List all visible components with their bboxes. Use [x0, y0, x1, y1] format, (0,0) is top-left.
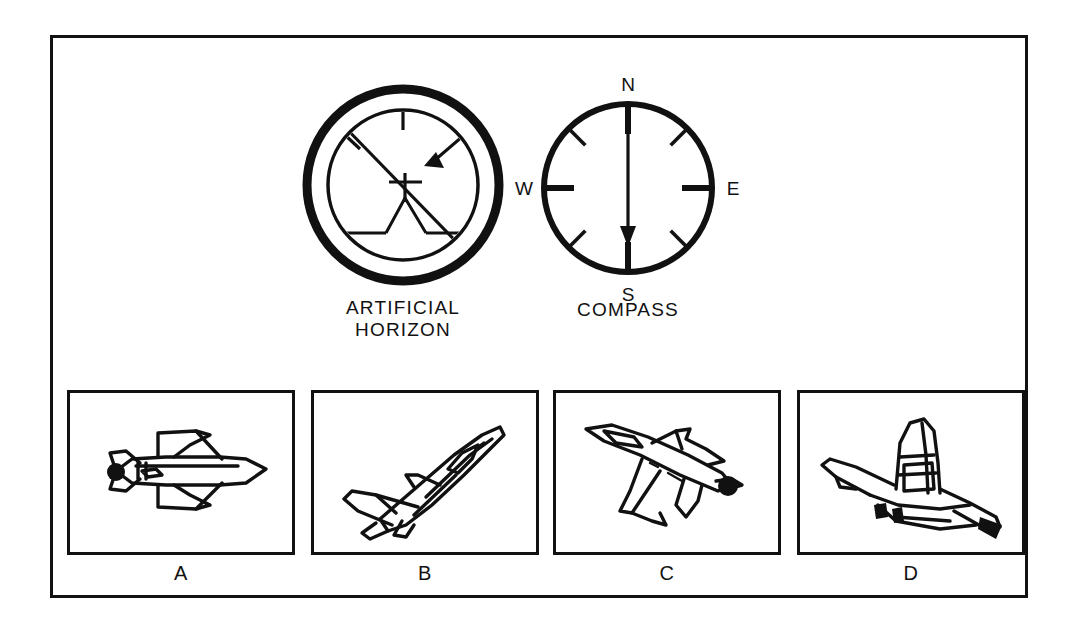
aircraft-panel-b-box	[311, 390, 539, 555]
aircraft-panels-row: A	[53, 390, 1031, 601]
compass-icon: N E S W	[493, 58, 763, 313]
figure-page: ARTIFICIAL HORIZON	[0, 0, 1075, 626]
compass-label-north: N	[621, 74, 635, 95]
compass-label-east: E	[727, 178, 740, 199]
aircraft-panel-b-label: B	[311, 562, 539, 585]
artificial-horizon-icon	[278, 78, 528, 293]
artificial-horizon-instrument: ARTIFICIAL HORIZON	[278, 78, 528, 342]
aircraft-panel-b[interactable]: B	[311, 390, 539, 601]
figure-outer-frame: ARTIFICIAL HORIZON	[50, 35, 1028, 598]
aircraft-silhouette-b-icon	[314, 393, 536, 552]
aircraft-panel-d[interactable]: D	[797, 390, 1025, 601]
aircraft-silhouette-c-icon	[556, 393, 778, 552]
aircraft-panel-d-box	[797, 390, 1025, 555]
aircraft-panel-c-label: C	[553, 562, 781, 585]
compass-instrument: N E S W COMPASS	[493, 58, 763, 321]
aircraft-panel-a[interactable]: A	[67, 390, 295, 601]
artificial-horizon-caption: ARTIFICIAL HORIZON	[278, 297, 528, 342]
aircraft-panel-a-label: A	[67, 562, 295, 585]
instruments-row: ARTIFICIAL HORIZON	[53, 38, 1031, 368]
aircraft-silhouette-d-icon	[800, 393, 1022, 552]
aircraft-panel-c[interactable]: C	[553, 390, 781, 601]
compass-caption: COMPASS	[493, 299, 763, 321]
aircraft-silhouette-a-icon	[70, 393, 292, 552]
aircraft-panel-d-label: D	[797, 562, 1025, 585]
compass-label-west: W	[515, 178, 533, 199]
aircraft-panel-a-box	[67, 390, 295, 555]
aircraft-panel-c-box	[553, 390, 781, 555]
